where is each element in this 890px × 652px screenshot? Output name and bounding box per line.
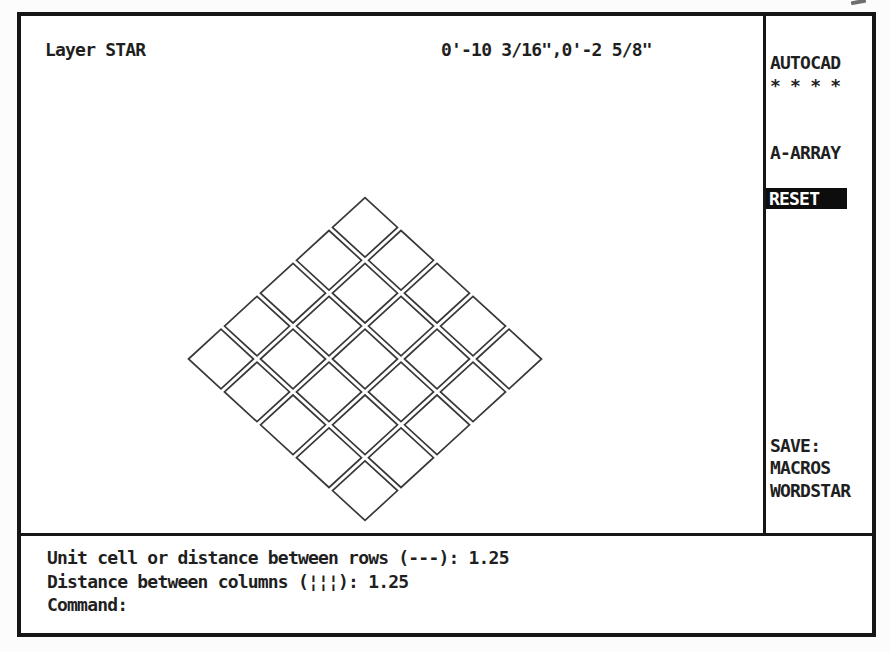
screen-menu-item-reset[interactable]: RESET <box>766 187 870 210</box>
screen-menu: AUTOCAD* * * *A-ARRAYRESETSAVE:MACROSWOR… <box>766 52 870 502</box>
screen-menu-item-label: * * * * <box>766 75 840 98</box>
square-entity[interactable] <box>369 362 434 422</box>
screen-menu-item-label: A-ARRAY <box>766 142 840 165</box>
square-entity[interactable] <box>297 231 362 291</box>
screen-menu-item-macros[interactable]: MACROS <box>766 457 870 480</box>
screen-menu-item-wordstar[interactable]: WORDSTAR <box>766 480 870 503</box>
screen-menu-blank-row <box>766 300 870 323</box>
screen-menu-item-label: MACROS <box>766 457 830 480</box>
screen-menu-blank-row <box>766 120 870 143</box>
screen-menu-item-a-array[interactable]: A-ARRAY <box>766 142 870 165</box>
scanned-page: Layer STAR 0'-10 3/16",0'-2 5/8" AUTOCAD… <box>0 0 890 652</box>
square-entity[interactable] <box>333 329 398 389</box>
screen-menu-blank-row <box>766 232 870 255</box>
square-entity[interactable] <box>297 362 362 422</box>
square-entity[interactable] <box>225 296 290 356</box>
square-entity[interactable] <box>405 395 470 455</box>
square-entity[interactable] <box>333 461 398 521</box>
screen-menu-blank-row <box>766 165 870 188</box>
square-entity[interactable] <box>225 362 290 422</box>
command-prompt[interactable]: Command: <box>47 593 847 617</box>
square-entity[interactable] <box>261 395 326 455</box>
screen-menu-blank-row <box>766 210 870 233</box>
square-entity[interactable] <box>477 329 542 389</box>
square-entity[interactable] <box>189 329 254 389</box>
square-entity[interactable] <box>297 428 362 488</box>
autocad-screen: Layer STAR 0'-10 3/16",0'-2 5/8" AUTOCAD… <box>17 12 876 637</box>
status-coordinates-readout: 0'-10 3/16",0'-2 5/8" <box>441 40 652 60</box>
command-area: Unit cell or distance between rows (---)… <box>47 546 847 617</box>
screen-menu-item-save[interactable]: SAVE: <box>766 435 870 458</box>
square-entity[interactable] <box>333 263 398 323</box>
screen-menu-item-label: AUTOCAD <box>766 52 840 75</box>
screen-menu-blank-row <box>766 345 870 368</box>
screen-menu-blank-row <box>766 367 870 390</box>
screen-menu-item-autocad[interactable]: AUTOCAD <box>766 52 870 75</box>
screen-menu-blank-row <box>766 255 870 278</box>
screen-menu-item-label: RESET <box>766 188 847 209</box>
command-history-line: Unit cell or distance between rows (---)… <box>47 546 847 570</box>
screen-menu-blank-row <box>766 412 870 435</box>
square-entity[interactable] <box>405 263 470 323</box>
drawing-canvas[interactable] <box>21 16 872 633</box>
screen-menu-item-[interactable]: * * * * <box>766 75 870 98</box>
square-entity[interactable] <box>369 428 434 488</box>
status-layer-label: Layer STAR <box>45 40 145 60</box>
screen-menu-blank-row <box>766 277 870 300</box>
screen-menu-item-label: WORDSTAR <box>766 480 850 503</box>
square-entity[interactable] <box>333 198 398 258</box>
screen-menu-blank-row <box>766 390 870 413</box>
scan-artifact <box>851 0 866 5</box>
square-entity[interactable] <box>441 362 506 422</box>
square-entity[interactable] <box>261 329 326 389</box>
screen-menu-blank-row <box>766 322 870 345</box>
square-entity[interactable] <box>333 395 398 455</box>
square-entity[interactable] <box>441 296 506 356</box>
square-entity[interactable] <box>261 263 326 323</box>
square-entity[interactable] <box>405 329 470 389</box>
screen-menu-blank-row <box>766 97 870 120</box>
square-entity[interactable] <box>369 296 434 356</box>
square-entity[interactable] <box>369 231 434 291</box>
square-entity[interactable] <box>297 296 362 356</box>
command-history-line: Distance between columns (¦¦¦): 1.25 <box>47 570 847 594</box>
command-area-divider <box>21 533 872 536</box>
screen-menu-item-label: SAVE: <box>766 435 820 458</box>
